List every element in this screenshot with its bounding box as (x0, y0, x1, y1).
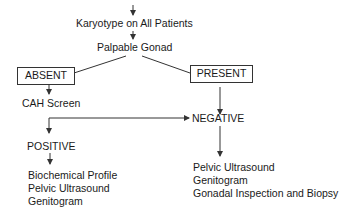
negative-list-item: Gonadal Inspection and Biopsy (193, 187, 338, 200)
negative-list-item: Pelvic Ultrasound (193, 161, 275, 174)
positive-list-item: Biochemical Profile (28, 169, 117, 182)
palpable-gonad-node: Palpable Gonad (97, 41, 172, 54)
positive-list-item: Pelvic Ultrasound (28, 182, 110, 195)
positive-list-item: Genitogram (28, 195, 83, 208)
present-box: PRESENT (190, 65, 253, 83)
negative-list-item: Genitogram (193, 174, 248, 187)
absent-box: ABSENT (17, 67, 75, 85)
cah-screen-node: CAH Screen (22, 97, 80, 110)
karyotype-node: Karyotype on All Patients (76, 17, 193, 30)
negative-node: NEGATIVE (192, 112, 244, 125)
positive-node: POSITIVE (27, 140, 75, 153)
